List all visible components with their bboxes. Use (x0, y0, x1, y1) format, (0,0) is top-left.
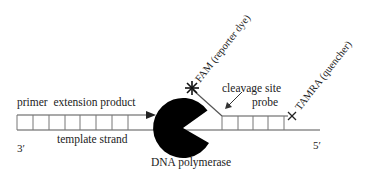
fam-reporter-label: FAM (reporter dye) (193, 12, 254, 85)
five-prime-label: 5′ (313, 139, 321, 151)
taqman-diagram: primer extension product template strand… (0, 0, 372, 176)
tamra-quencher-label: TAMRA (quencher) (293, 38, 355, 112)
primer-rungs (17, 115, 128, 130)
tamra-x-icon (288, 112, 296, 120)
fam-asterisk-icon (185, 81, 199, 95)
dna-polymerase-shape (153, 98, 209, 158)
probe-label: probe (252, 96, 278, 109)
three-prime-label: 3′ (17, 142, 25, 154)
cleavage-site-label: cleavage site (222, 82, 281, 95)
cleavage-arrow-line (228, 92, 242, 106)
primer-arrowhead (146, 111, 156, 119)
template-strand-label: template strand (57, 133, 128, 146)
dna-polymerase-label: DNA polymerase (151, 156, 231, 169)
primer-extension-label: primer extension product (17, 96, 136, 109)
probe-rungs (222, 116, 284, 130)
